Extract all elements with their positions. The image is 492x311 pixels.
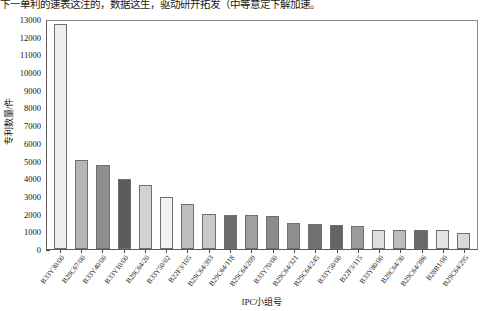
bar-slot [92,21,113,249]
bar [96,165,109,249]
x-tick-mark [464,250,465,253]
x-tick-mark [379,250,380,253]
bar-slot [304,21,325,249]
x-tick-mark [187,250,188,253]
bar-chart-figure: 专利数量/件 130001200011000100009000800070006… [0,12,492,311]
bar-slot [432,21,453,249]
bar-slot [389,21,410,249]
y-tick-label: 4000 [24,175,41,184]
x-tick-mark [230,250,231,253]
y-tick-label: 8000 [24,104,41,113]
x-tick-mark [166,250,167,253]
bar [75,160,88,249]
bar [202,214,215,249]
y-tick-label: 9000 [24,86,41,95]
y-tick-label: 11000 [20,51,41,60]
y-tick-label: 2000 [24,210,41,219]
y-tick-label: 5000 [24,157,41,166]
bar-slot [262,21,283,249]
bar [372,230,385,249]
bar [224,215,237,250]
y-axis-title: 专利数量/件 [2,90,15,154]
bar [457,233,470,249]
bar-slot [410,21,431,249]
bar [393,230,406,249]
bar-series [47,21,477,249]
bar-slot [177,21,198,249]
x-tick-mark [102,250,103,253]
y-tick-label: 13000 [20,16,41,25]
y-tick-label: 6000 [24,139,41,148]
y-tick-label: 0 [37,246,41,255]
bar [436,230,449,249]
bar [414,230,427,249]
bar [266,216,279,249]
x-tick-mark [294,250,295,253]
bar [54,24,67,249]
bar-slot [368,21,389,249]
bar [118,179,131,249]
bar-slot [241,21,262,249]
y-axis: 专利数量/件 130001200011000100009000800070006… [0,20,46,250]
y-tick-label: 1000 [24,228,41,237]
bar-slot [326,21,347,249]
figure-caption: 下一单利的速表这注的，数据这生，驱动研开拓发（中等意定下解加速。 [0,0,492,12]
x-axis-title: IPC小组号 [46,295,478,308]
bar-slot [453,21,474,249]
bar [351,226,364,249]
bar [181,204,194,249]
bar-slot [156,21,177,249]
x-tick-mark [422,250,423,253]
x-tick-mark [315,250,316,253]
bar [287,223,300,249]
x-tick-mark [400,250,401,253]
bar-slot [50,21,71,249]
y-tick-label: 3000 [24,192,41,201]
x-tick-mark [145,250,146,253]
bar-slot [283,21,304,249]
bar [330,225,343,249]
x-tick-mark [209,250,210,253]
x-tick-mark [358,250,359,253]
bar-slot [135,21,156,249]
bar [160,197,173,249]
bar-slot [220,21,241,249]
bar [245,215,258,249]
x-tick-mark [251,250,252,253]
x-tick-mark [81,250,82,253]
y-tick-label: 12000 [20,33,41,42]
bar-slot [114,21,135,249]
bar-slot [71,21,92,249]
bar-slot [198,21,219,249]
y-tick-label: 10000 [20,69,41,78]
bar-slot [347,21,368,249]
bar [139,185,152,249]
y-tick-label: 7000 [24,122,41,131]
plot-area [46,20,478,250]
bar [308,224,321,249]
